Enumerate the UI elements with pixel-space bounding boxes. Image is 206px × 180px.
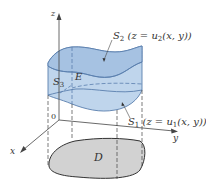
origin-label: 0 bbox=[51, 113, 56, 121]
s1-eq-pre: (z = u bbox=[139, 116, 173, 127]
solid-region-figure bbox=[0, 0, 206, 180]
y-axis-label: y bbox=[173, 134, 178, 143]
z-axis-label: z bbox=[51, 10, 55, 18]
d-label: D bbox=[94, 152, 103, 163]
z-axis-arrow-icon bbox=[57, 13, 62, 20]
s2-name: S bbox=[113, 30, 120, 41]
s2-label: S2 (z = u2(x, y)) bbox=[113, 31, 192, 43]
s1-label: S1 (z = u1(x, y)) bbox=[128, 117, 206, 129]
s3-label: S3 bbox=[53, 77, 64, 89]
s2-eq-post: (x, y)) bbox=[162, 30, 191, 41]
x-axis-label: x bbox=[10, 147, 15, 156]
s2-eq-pre: (z = u bbox=[124, 30, 158, 41]
e-label: E bbox=[75, 72, 82, 82]
s3-name: S bbox=[53, 76, 60, 87]
s3-sub: 3 bbox=[60, 81, 64, 89]
s1-eq-post: (x, y)) bbox=[177, 116, 206, 127]
x-axis-arrow-icon bbox=[20, 146, 27, 153]
s1-name: S bbox=[128, 116, 135, 127]
x-axis bbox=[23, 120, 59, 150]
